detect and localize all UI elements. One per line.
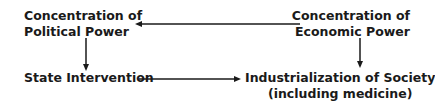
node-state-intervention: State Intervention [24, 70, 154, 86]
arrow-state-to-industrial [139, 76, 241, 82]
node-economic-power: Concentration of Economic Power [292, 8, 410, 40]
node-line: State Intervention [24, 70, 154, 86]
node-line: (including medicine) [245, 86, 435, 102]
node-political-power: Concentration of Political Power [24, 8, 142, 40]
arrow-economic-to-political [135, 21, 300, 27]
node-line: Economic Power [292, 24, 410, 40]
node-line: Political Power [24, 24, 142, 40]
node-industrialization: Industrialization of Society (including … [245, 70, 435, 102]
node-line: Concentration of [24, 8, 142, 24]
arrow-political-to-state [83, 38, 89, 71]
node-line: Industrialization of Society [245, 70, 435, 86]
arrow-economic-to-industrial [357, 38, 363, 68]
node-line: Concentration of [292, 8, 410, 24]
